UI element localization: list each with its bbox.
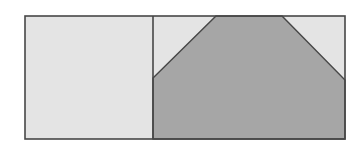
left-square-panel (25, 16, 153, 139)
diagram-canvas (0, 0, 360, 144)
